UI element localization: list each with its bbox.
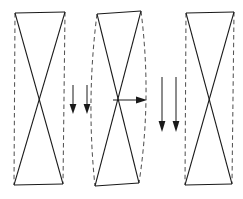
panel-right-side-dashed	[232, 12, 234, 184]
panel-top-chord	[186, 12, 234, 13]
panel-bottom-chord	[95, 183, 139, 186]
panel-left-side-buckled-curve	[91, 14, 97, 186]
panel-brace-diagonal-b	[95, 11, 141, 186]
arrow-head-down-icon	[84, 104, 91, 114]
panel-top-chord	[97, 11, 141, 14]
panel-right-side-dashed	[63, 12, 65, 184]
panel-right-side-buckled-curve	[139, 11, 146, 183]
arrow-head-right-icon	[136, 97, 147, 104]
load-arrow-right-1	[159, 77, 166, 132]
figure-root	[0, 0, 243, 199]
panel-bottom-chord	[14, 184, 63, 185]
buckling-diagram	[0, 0, 243, 199]
panel-left	[14, 12, 65, 185]
panel-bottom-chord	[185, 184, 232, 185]
load-arrow-right-2	[173, 77, 180, 132]
panel-right	[185, 12, 234, 185]
load-arrow-left-2	[84, 85, 91, 114]
arrow-head-down-icon	[173, 121, 180, 132]
panel-top-chord	[15, 12, 65, 13]
panel-left-side-dashed	[14, 13, 15, 185]
panel-left-side-dashed	[185, 13, 186, 185]
arrow-head-down-icon	[70, 104, 77, 114]
arrow-head-down-icon	[159, 121, 166, 132]
load-arrow-left-1	[70, 85, 77, 114]
